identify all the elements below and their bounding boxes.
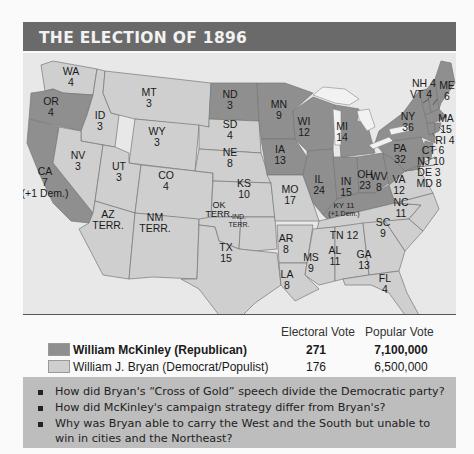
label-OK-votes: TERR. [206, 209, 233, 219]
label-CA-note: (+1 Dem.) [23, 187, 68, 199]
electoral-vote: 176 [291, 360, 341, 374]
state-MT [103, 71, 211, 127]
label-NE-votes: 8 [227, 157, 233, 169]
label-KS-votes: 10 [238, 188, 250, 200]
label-MN-votes: 9 [276, 109, 282, 121]
label-UT-votes: 3 [116, 171, 122, 183]
label-MO-votes: 17 [284, 194, 296, 206]
label-MT-votes: 3 [146, 97, 152, 109]
label-OH-votes: 23 [359, 179, 371, 191]
label-IND-votes: TERR. [229, 221, 250, 228]
candidate-name: William McKinley (Republican) [73, 343, 247, 357]
label-WY-votes: 3 [154, 136, 160, 148]
label-IN-votes: 15 [340, 186, 352, 198]
label-NV-votes: 3 [75, 160, 81, 172]
label-GA-votes: 13 [358, 259, 370, 271]
label-MS-votes: 9 [308, 262, 314, 274]
election-map: WA 4 OR 4 CA 7 (+1 Dem.) ID 3 NV 3 MT 3 … [23, 53, 456, 314]
label-CO-votes: 4 [163, 180, 169, 192]
label-SC-votes: 9 [380, 227, 386, 239]
questions-box: How did Bryan's “Cross of Gold” speech d… [23, 377, 456, 448]
electoral-vote: 271 [291, 343, 341, 357]
question-item: How did McKinley's campaign strategy dif… [55, 400, 445, 415]
label-VT: VT 4 [410, 88, 432, 100]
label-KY-name: KY 11 [333, 201, 355, 210]
electoral-vote-header: Electoral Vote [281, 325, 355, 339]
legend: Electoral Vote Popular Vote William McKi… [23, 315, 456, 373]
label-WV-votes: 8 [376, 181, 382, 193]
label-AR-votes: 8 [283, 243, 289, 255]
label-IA-votes: 13 [274, 154, 286, 166]
popular-vote-header: Popular Vote [365, 325, 434, 339]
label-TN: TN 12 [330, 229, 359, 241]
popular-vote: 6,500,000 [361, 360, 441, 374]
label-IL-votes: 24 [313, 184, 325, 196]
label-ME-votes: 6 [444, 90, 450, 102]
popular-vote: 7,100,000 [361, 343, 441, 357]
label-SD-votes: 4 [227, 129, 233, 141]
label-NM-votes: TERR. [139, 222, 171, 234]
label-WA-votes: 4 [68, 76, 74, 88]
label-AL-votes: 11 [330, 255, 341, 267]
bullet-icon [38, 422, 43, 427]
label-VA-votes: 12 [393, 184, 405, 196]
bullet-icon [38, 390, 43, 395]
republican-swatch [48, 343, 70, 356]
question-item: How did Bryan's “Cross of Gold” speech d… [55, 384, 445, 399]
label-FL-votes: 4 [382, 283, 388, 295]
democrat-swatch [48, 360, 70, 373]
label-TX-votes: 15 [220, 252, 232, 264]
map-title: THE ELECTION OF 1896 [39, 29, 247, 47]
label-IND-name: IND. [232, 213, 246, 220]
label-OR-votes: 4 [48, 106, 54, 118]
label-NY-votes: 36 [402, 121, 414, 133]
question-item: Why was Bryan able to carry the West and… [55, 416, 445, 446]
label-AZ-votes: TERR. [92, 219, 124, 231]
label-ID-votes: 3 [97, 120, 103, 132]
label-WI-votes: 12 [298, 126, 310, 138]
label-PA-votes: 32 [394, 153, 406, 165]
label-ND-votes: 3 [227, 99, 233, 111]
label-LA-votes: 8 [284, 279, 290, 291]
candidate-name: William J. Bryan (Democrat/Populist) [73, 360, 268, 374]
us-map-svg: WA 4 OR 4 CA 7 (+1 Dem.) ID 3 NV 3 MT 3 … [23, 53, 456, 314]
map-header: THE ELECTION OF 1896 [23, 22, 456, 51]
label-NC-votes: 11 [396, 207, 407, 219]
label-MI-votes: 14 [336, 131, 348, 143]
label-KY-note: (+1 Dem.) [328, 210, 359, 218]
bullet-icon [38, 406, 43, 411]
label-MD: MD 8 [416, 177, 441, 189]
